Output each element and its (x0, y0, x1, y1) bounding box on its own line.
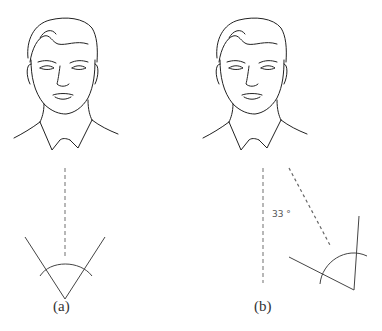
face-drawing-b (203, 18, 307, 150)
face-drawing-a (14, 18, 118, 150)
dashed-angle-line-b (289, 168, 331, 247)
panel-label-a: (a) (53, 298, 70, 315)
angle-v-b (289, 216, 367, 290)
panel-label-b: (b) (254, 298, 272, 315)
angle-label: 33 ° (272, 209, 291, 219)
diagram-canvas (0, 0, 382, 331)
